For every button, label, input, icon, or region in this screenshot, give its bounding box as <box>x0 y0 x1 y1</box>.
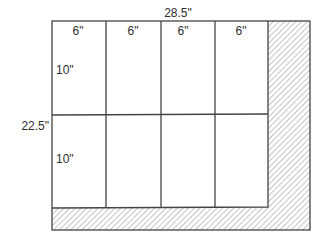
row-height-label-1: 10" <box>56 64 74 76</box>
column-width-label-1: 6" <box>73 25 84 37</box>
column-width-label-4: 6" <box>236 25 247 37</box>
row-divider <box>52 114 268 115</box>
row-height-label-2: 10" <box>56 153 74 165</box>
hatched-margin <box>52 21 310 230</box>
overall-width-label: 28.5" <box>164 7 192 19</box>
column-width-label-2: 6" <box>128 25 139 37</box>
column-width-label-3: 6" <box>178 25 189 37</box>
overall-height-label: 22.5" <box>21 120 49 132</box>
